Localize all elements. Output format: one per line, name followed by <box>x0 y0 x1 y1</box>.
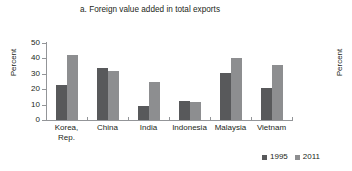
y-axis-tick-label: 0 <box>0 116 40 124</box>
y-axis-tick-label: 50 <box>0 39 40 47</box>
x-axis-separator-tick <box>87 117 88 121</box>
legend-swatch-icon <box>262 155 267 160</box>
bar-1995 <box>138 106 149 120</box>
bar-1995 <box>97 68 108 120</box>
legend-label: 1995 <box>270 153 288 161</box>
bar-2011 <box>231 58 242 120</box>
bar-2011 <box>67 55 78 120</box>
plot-area <box>46 43 292 120</box>
y-axis-tick-label: 10 <box>0 101 40 109</box>
y-axis-tick-mark <box>42 74 46 75</box>
bar-2011 <box>190 102 201 120</box>
x-axis-separator-tick <box>169 117 170 121</box>
y-axis-tick-labels: 50403020100 <box>0 0 40 171</box>
chart-legend: 19952011 <box>262 153 320 161</box>
y-axis-tick-mark <box>42 120 46 121</box>
y-axis-tick-mark <box>42 58 46 59</box>
x-axis-separator-tick <box>251 117 252 121</box>
adjacent-chart-y-axis-title: Percent <box>335 38 344 88</box>
y-axis-tick-mark <box>42 43 46 44</box>
y-axis-tick-label: 30 <box>0 70 40 78</box>
legend-item-2011: 2011 <box>295 153 320 161</box>
y-axis-tick-mark <box>42 89 46 90</box>
y-axis-tick-label: 40 <box>0 54 40 62</box>
legend-label: 2011 <box>303 153 320 161</box>
bar-2011 <box>108 71 119 120</box>
bar-1995 <box>220 73 231 120</box>
chart-title: a. Foreign value added in total exports <box>0 5 300 14</box>
bar-2011 <box>272 65 283 120</box>
y-axis-tick-mark <box>42 105 46 106</box>
legend-swatch-icon <box>295 155 300 160</box>
x-axis-category-label: Vietnam <box>245 123 298 133</box>
bar-1995 <box>179 101 190 120</box>
legend-item-1995: 1995 <box>262 153 288 161</box>
figure-panel: a. Foreign value added in total exports … <box>0 0 352 171</box>
x-axis-separator-tick <box>210 117 211 121</box>
x-axis-separator-tick <box>128 117 129 121</box>
bar-1995 <box>261 88 272 120</box>
x-axis-end-tick <box>292 117 293 121</box>
y-axis-tick-label: 20 <box>0 85 40 93</box>
bar-2011 <box>149 82 160 120</box>
bar-1995 <box>56 85 67 120</box>
